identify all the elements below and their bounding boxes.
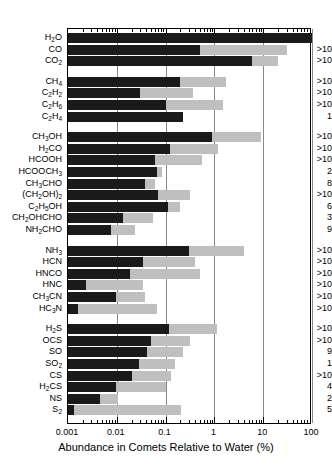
comet-count-H2CS: 4 bbox=[313, 381, 332, 391]
bar-typical-C2H4 bbox=[68, 112, 183, 122]
comet-count-C2H5OH: 6 bbox=[313, 201, 332, 211]
bar-typical-HNC bbox=[68, 280, 86, 290]
comet-count-C2H4: 1 bbox=[313, 111, 332, 121]
comet-count-CH3OH: >10 bbox=[313, 131, 332, 141]
comet-count-H2S: >10 bbox=[313, 323, 332, 333]
species-label-SO: SO bbox=[49, 346, 62, 356]
bar-typical-C2H5OH bbox=[68, 202, 168, 212]
bar-row bbox=[68, 324, 310, 334]
bar-typical-CH3CN bbox=[68, 292, 116, 302]
species-label-C2H2: C2H2 bbox=[42, 87, 62, 98]
bar-row bbox=[68, 33, 310, 43]
bar-row bbox=[68, 257, 310, 267]
bar-row bbox=[68, 359, 310, 369]
bar-typical-HCOOCH3 bbox=[68, 167, 157, 177]
species-label-H2S: H2S bbox=[46, 323, 62, 334]
bar-row bbox=[68, 112, 310, 122]
xtick-label-0.1: 0.1 bbox=[158, 427, 171, 437]
comet-count-HC3N: >10 bbox=[313, 303, 332, 313]
bar-row bbox=[68, 371, 310, 381]
species-label-SO2: SO2 bbox=[45, 358, 62, 369]
x-axis-title: Abundance in Comets Relative to Water (%… bbox=[0, 441, 332, 453]
comet-count-HCOOCH3: 2 bbox=[313, 166, 332, 176]
comet-count-(CH2OH)2: >10 bbox=[313, 189, 332, 199]
bar-row bbox=[68, 167, 310, 177]
bar-typical-C2H2 bbox=[68, 88, 140, 98]
bar-row bbox=[68, 394, 310, 404]
species-label-NS: NS bbox=[49, 393, 62, 403]
xtick-label-10: 10 bbox=[257, 427, 267, 437]
bar-row bbox=[68, 336, 310, 346]
bar-typical-HNCO bbox=[68, 269, 130, 279]
comet-count-S2: 5 bbox=[313, 404, 332, 414]
bar-typical-CH2OHCHO bbox=[68, 213, 123, 223]
species-label-OCS: OCS bbox=[42, 335, 62, 345]
species-label-CH3OH: CH3OH bbox=[32, 131, 62, 142]
bar-row bbox=[68, 213, 310, 223]
bar-row bbox=[68, 304, 310, 314]
bar-row bbox=[68, 280, 310, 290]
species-label-C2H5OH: C2H5OH bbox=[28, 201, 62, 212]
species-label-H2CO: H2CO bbox=[38, 143, 62, 154]
bar-typical-NH3 bbox=[68, 246, 189, 256]
bar-typical-(CH2OH)2 bbox=[68, 190, 158, 200]
bar-typical-HC3N bbox=[68, 304, 78, 314]
comet-count-SO: 9 bbox=[313, 346, 332, 356]
bar-typical-H2O bbox=[68, 33, 312, 43]
bar-typical-SO2 bbox=[68, 359, 139, 369]
comet-count-CS: >10 bbox=[313, 370, 332, 380]
bar-typical-NS bbox=[68, 394, 100, 404]
plot-area bbox=[67, 28, 311, 424]
bar-typical-HCOOH bbox=[68, 155, 155, 165]
comet-count-H2CO: >10 bbox=[313, 143, 332, 153]
bar-typical-S2 bbox=[68, 405, 74, 415]
species-label-H2CS: H2CS bbox=[39, 381, 62, 392]
species-label-NH3: NH3 bbox=[45, 245, 62, 256]
bar-typical-CH3OH bbox=[68, 132, 212, 142]
comet-count-C2H2: >10 bbox=[313, 87, 332, 97]
comet-count-HCN: >10 bbox=[313, 256, 332, 266]
comet-count-NS: 2 bbox=[313, 393, 332, 403]
bar-rows bbox=[68, 29, 310, 423]
bar-row bbox=[68, 225, 310, 235]
comet-count-OCS: >10 bbox=[313, 335, 332, 345]
bar-typical-CO bbox=[68, 45, 200, 55]
bar-row bbox=[68, 382, 310, 392]
bar-row bbox=[68, 246, 310, 256]
species-label-C2H6: C2H6 bbox=[42, 99, 62, 110]
bar-row bbox=[68, 56, 310, 66]
comet-abundance-chart: H2OCOCO2CH4C2H2C2H6C2H4CH3OHH2COHCOOHHCO… bbox=[0, 0, 332, 468]
xtick-label-1: 1 bbox=[211, 427, 216, 437]
comet-count-NH2CHO: 9 bbox=[313, 224, 332, 234]
bar-row bbox=[68, 202, 310, 212]
species-label-CH4: CH4 bbox=[45, 76, 62, 87]
comet-count-NH3: >10 bbox=[313, 245, 332, 255]
species-label-CH3CN: CH3CN bbox=[32, 291, 62, 302]
species-label-HCOOH: HCOOH bbox=[29, 154, 63, 164]
bar-row bbox=[68, 88, 310, 98]
species-label-(CH2OH)2: (CH2OH)2 bbox=[22, 189, 62, 200]
comet-count-HCOOH: >10 bbox=[313, 154, 332, 164]
bar-row bbox=[68, 292, 310, 302]
bar-typical-H2CO bbox=[68, 144, 170, 154]
bar-row bbox=[68, 179, 310, 189]
bar-row bbox=[68, 405, 310, 415]
species-label-S2: S2 bbox=[52, 404, 62, 415]
species-label-CO: CO bbox=[49, 44, 63, 54]
species-label-HNCO: HNCO bbox=[36, 268, 63, 278]
bar-max-S2 bbox=[68, 405, 181, 415]
species-label-CS: CS bbox=[49, 370, 62, 380]
bar-typical-OCS bbox=[68, 336, 151, 346]
species-label-CO2: CO2 bbox=[45, 55, 62, 66]
comet-count-SO2: 1 bbox=[313, 358, 332, 368]
bar-typical-H2S bbox=[68, 324, 169, 334]
comet-count-CO2: >10 bbox=[313, 55, 332, 65]
species-label-HCOOCH3: HCOOCH3 bbox=[18, 166, 62, 177]
bar-typical-NH2CHO bbox=[68, 225, 111, 235]
bar-row bbox=[68, 269, 310, 279]
comet-count-CH3CHO: 8 bbox=[313, 178, 332, 188]
comet-count-HNCO: >10 bbox=[313, 268, 332, 278]
comet-count-CO: >10 bbox=[313, 44, 332, 54]
species-label-C2H4: C2H4 bbox=[42, 111, 62, 122]
bar-typical-H2CS bbox=[68, 382, 116, 392]
